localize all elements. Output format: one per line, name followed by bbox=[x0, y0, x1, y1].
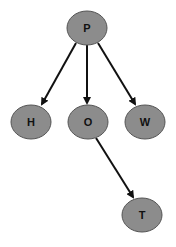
node-t-label: T bbox=[139, 209, 146, 221]
node-w[interactable]: W bbox=[125, 105, 165, 139]
tree-diagram: P H O W T bbox=[0, 0, 176, 247]
node-p-label: P bbox=[83, 22, 90, 34]
node-o[interactable]: O bbox=[68, 105, 108, 139]
node-w-label: W bbox=[140, 116, 151, 128]
node-t[interactable]: T bbox=[122, 198, 162, 232]
edge-p-w bbox=[98, 43, 135, 104]
node-h[interactable]: H bbox=[11, 105, 51, 139]
edge-o-t bbox=[96, 138, 133, 197]
node-p[interactable]: P bbox=[67, 11, 107, 45]
edge-p-h bbox=[42, 43, 76, 104]
node-h-label: H bbox=[27, 116, 35, 128]
node-o-label: O bbox=[84, 116, 93, 128]
